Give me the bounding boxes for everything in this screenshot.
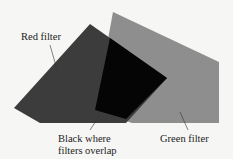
- green-filter-label: Green filter: [160, 133, 209, 144]
- red-filter-label: Red filter: [21, 31, 61, 42]
- filter-overlap-diagram: Red filter Green filter Black where filt…: [0, 0, 233, 159]
- overlap-label-line2: filters overlap: [58, 145, 117, 156]
- overlap-label-line1: Black where: [58, 133, 111, 144]
